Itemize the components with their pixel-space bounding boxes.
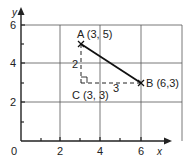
y-tick-4: 4 xyxy=(10,57,16,69)
point-C-label: C (3, 3) xyxy=(72,89,109,101)
y-tick-2: 2 xyxy=(10,96,16,108)
y-axis-arrow-icon xyxy=(18,7,25,15)
segment-AB xyxy=(81,44,141,83)
origin-label: 0 xyxy=(11,145,17,157)
y-tick-6: 6 xyxy=(10,19,16,31)
coordinate-diagram: 0 2 4 6 x 2 4 6 y A (3, 5) B (6,3) C (3,… xyxy=(0,0,194,160)
x-tick-6: 6 xyxy=(138,145,144,157)
right-angle-marker xyxy=(81,77,87,83)
vertical-length-label: 2 xyxy=(72,58,78,70)
y-axis-label: y xyxy=(11,7,18,18)
point-B-label: B (6,3) xyxy=(146,77,179,89)
x-tick-4: 4 xyxy=(97,145,103,157)
horizontal-length-label: 3 xyxy=(113,82,119,94)
x-axis-arrow-icon xyxy=(164,138,172,145)
x-tick-2: 2 xyxy=(57,145,63,157)
x-axis-label: x xyxy=(156,146,163,157)
point-A-label: A (3, 5) xyxy=(77,28,112,40)
